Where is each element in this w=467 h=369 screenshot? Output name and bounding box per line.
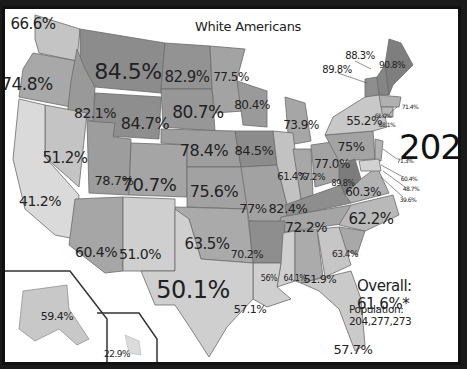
state-label-ne: 78.4% [180, 143, 228, 159]
state-label-ms: 56% [261, 275, 277, 283]
state-label-nc: 62.2% [348, 212, 393, 227]
state-label-sc: 63.4% [332, 250, 358, 259]
state-label-ar: 70.2% [231, 249, 263, 260]
state-label-hi: 22.9% [104, 350, 130, 359]
state-label-ma: 71.4% [402, 104, 419, 110]
year-label: 2020 [399, 127, 461, 167]
state-label-tx: 50.1% [156, 278, 230, 302]
state-label-nv: 51.2% [42, 151, 87, 166]
state-label-ks: 75.6% [190, 184, 238, 200]
state-label-mo: 77% [239, 202, 266, 215]
state-label-md: 48.7% [403, 186, 420, 192]
state-label-ca: 41.2% [19, 194, 61, 208]
population-total: Population: 204,277,273 [349, 303, 458, 327]
state-label-in: 77.2% [299, 173, 325, 182]
state-md [359, 159, 381, 171]
state-label-wi: 80.4% [234, 99, 270, 111]
state-label-va: 60.3% [345, 186, 381, 198]
state-label-nd: 82.9% [164, 70, 209, 85]
state-label-mi: 73.9% [283, 119, 319, 131]
map-title: White Americans [195, 19, 301, 34]
state-label-ga: 51.9% [304, 274, 336, 285]
state-ma [379, 95, 401, 107]
state-label-mt: 84.5% [94, 61, 161, 83]
state-label-ia: 84.5% [235, 144, 274, 157]
state-label-vt: 89.8% [322, 65, 351, 75]
state-vt [365, 77, 379, 97]
map-frame: White Americans 66.6%74.8%82.1%84.5%82.9… [2, 6, 461, 365]
state-label-la: 57.1% [234, 304, 266, 315]
state-az [69, 197, 123, 273]
state-label-mn: 77.5% [213, 71, 249, 83]
state-label-dc: 39.6% [400, 197, 417, 203]
state-nj [375, 139, 383, 161]
state-label-nm: 51.0% [119, 247, 161, 261]
state-label-wy: 84.7% [121, 116, 169, 132]
state-label-ak: 59.4% [41, 311, 73, 322]
state-label-fl: 57.7% [334, 343, 373, 356]
state-label-ky: 82.4% [269, 202, 308, 215]
state-label-tn: 72.2% [285, 220, 327, 234]
state-label-or: 74.8% [2, 76, 53, 93]
state-label-sd: 80.7% [172, 104, 224, 121]
state-label-pa: 75% [337, 140, 364, 153]
state-label-id: 82.1% [74, 106, 116, 120]
state-label-nh: 88.3% [345, 51, 374, 61]
state-label-az: 60.4% [75, 245, 117, 259]
state-label-de: 60.4% [401, 176, 418, 182]
state-label-co: 70.7% [122, 176, 177, 194]
state-label-ok: 63.5% [184, 237, 229, 252]
state-label-wa: 66.6% [10, 17, 55, 32]
state-label-ri: 68.1% [379, 122, 396, 128]
state-label-me: 90.8% [379, 61, 405, 70]
state-label-ct: 65.0% [375, 113, 392, 119]
state-label-oh: 77.0% [314, 158, 350, 170]
